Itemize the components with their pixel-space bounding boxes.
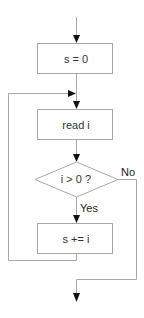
node-accumulate-label: s += i bbox=[38, 233, 114, 245]
edge-label-yes: Yes bbox=[80, 202, 98, 214]
node-read-label: read i bbox=[38, 119, 114, 131]
arrowhead-icon bbox=[73, 154, 80, 162]
arrowhead-icon bbox=[73, 215, 80, 223]
arrowhead-icon bbox=[73, 35, 80, 43]
arrowhead-icon bbox=[68, 90, 76, 97]
node-cond-label: i > 0 ? bbox=[38, 173, 114, 185]
flowchart-canvas: s = 0 read i i > 0 ? s += i Yes No bbox=[0, 0, 144, 318]
arrowhead-icon bbox=[73, 293, 80, 302]
node-init-label: s = 0 bbox=[38, 53, 114, 65]
arrowhead-icon bbox=[73, 101, 80, 109]
edge-label-no: No bbox=[121, 166, 135, 178]
flowchart-connectors bbox=[0, 0, 144, 318]
